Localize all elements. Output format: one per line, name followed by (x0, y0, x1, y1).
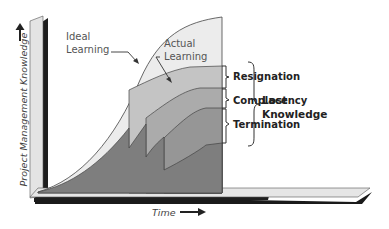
ideal-label-line1: Ideal (66, 30, 109, 43)
lost-knowledge-label: Lost Knowledge (262, 93, 327, 121)
ideal-learning-pointer (111, 52, 139, 64)
diagram-canvas (0, 0, 389, 229)
ideal-learning-label: Ideal Learning (66, 30, 109, 56)
actual-learning-label: Actual Learning (164, 37, 207, 63)
ideal-label-line2: Learning (66, 43, 109, 56)
actual-label-line2: Learning (164, 50, 207, 63)
lost-knowledge-line2: Knowledge (262, 107, 327, 121)
actual-label-line1: Actual (164, 37, 207, 50)
x-axis-arrow (180, 208, 206, 216)
y-axis-bar (30, 16, 48, 199)
x-axis-label: Time (152, 207, 176, 218)
y-axis-label: Project Management Knowledge (18, 57, 29, 187)
cause-brackets (222, 66, 229, 143)
cause-resignation: Resignation (233, 71, 300, 82)
lost-knowledge-line1: Lost (262, 93, 327, 107)
